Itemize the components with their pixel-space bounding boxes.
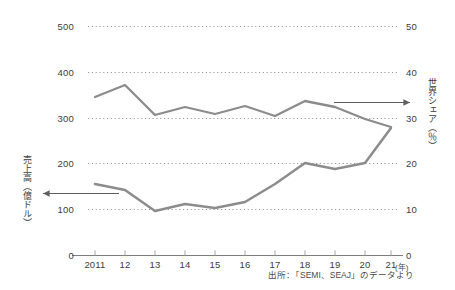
y-left-tick-200: 200 xyxy=(42,158,74,169)
y-left-tick-300: 300 xyxy=(42,113,74,124)
y-left-tick-400: 400 xyxy=(42,67,74,78)
y-right-tick-40: 40 xyxy=(406,67,438,78)
y-right-tick-10: 10 xyxy=(406,204,438,215)
y-right-tick-50: 50 xyxy=(406,21,438,32)
x-axis-ticks xyxy=(95,251,391,256)
chart-canvas xyxy=(0,0,455,290)
y-left-tick-500: 500 xyxy=(42,21,74,32)
y-right-tick-20: 20 xyxy=(406,158,438,169)
series-world-share-line xyxy=(95,85,391,127)
y-left-axis-title: 売上高（億ドル） xyxy=(22,155,31,227)
y-right-axis-title: 世界シェア（％） xyxy=(427,78,436,150)
series-sales-line xyxy=(95,128,391,211)
source-note: 出所：「SEMI、SEAJ」のデータより xyxy=(268,268,414,280)
chart-container: 500 400 300 200 100 0 50 40 30 20 10 0 2… xyxy=(0,0,455,290)
y-left-tick-100: 100 xyxy=(42,204,74,215)
y-left-tick-0: 0 xyxy=(42,250,74,261)
gridlines xyxy=(88,27,399,210)
